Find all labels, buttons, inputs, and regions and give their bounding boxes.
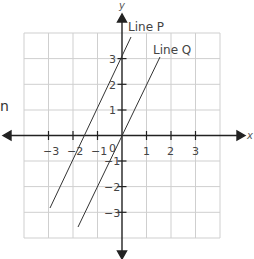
x-tick-label: 3 xyxy=(192,145,199,158)
y-tick-label: −3 xyxy=(104,207,120,220)
x-axis-left-arrow-icon xyxy=(3,131,11,140)
x-axis-right-arrow-icon xyxy=(237,131,245,140)
origin-label: 0 xyxy=(109,142,116,155)
y-axis-label: y xyxy=(118,0,126,11)
x-axis-label: x xyxy=(246,130,253,141)
line-q-label: Line Q xyxy=(153,43,191,57)
y-tick-label: −2 xyxy=(104,181,120,194)
x-tick-label: −3 xyxy=(43,145,59,158)
y-axis-up-arrow-icon xyxy=(118,14,127,22)
x-tick-label: 2 xyxy=(167,145,174,158)
coordinate-graph: −3 −2 −1 1 2 3 0 3 2 1 −1 −2 −3 x y Line… xyxy=(0,0,254,259)
line-q xyxy=(78,57,160,227)
y-axis-down-arrow-icon xyxy=(118,251,127,259)
line-p-label: Line P xyxy=(128,20,164,34)
x-tick-label: 1 xyxy=(143,145,150,158)
y-tick-label: 1 xyxy=(109,104,116,117)
y-tick-label: 3 xyxy=(109,53,116,66)
